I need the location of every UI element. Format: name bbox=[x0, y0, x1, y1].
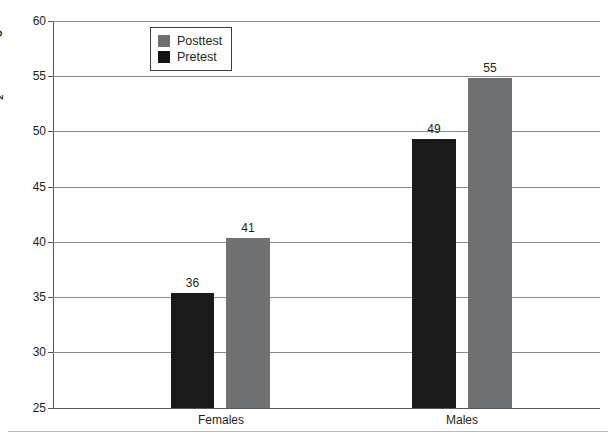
x-tick-label-males: Males bbox=[392, 413, 532, 427]
bar-females-pretest bbox=[171, 293, 214, 408]
legend-item-pretest[interactable]: Pretest bbox=[158, 49, 222, 65]
bar-males-posttest bbox=[468, 78, 512, 408]
bar-males-pretest bbox=[412, 139, 456, 408]
tickmark-50 bbox=[48, 131, 53, 132]
tickmark-45 bbox=[48, 187, 53, 188]
legend-label-posttest: Posttest bbox=[177, 35, 222, 48]
gridline-60 bbox=[53, 21, 600, 22]
tickmark-55 bbox=[48, 76, 53, 77]
bar-value-females-pretest: 36 bbox=[171, 277, 214, 289]
y-axis-title-middle-2: •min bbox=[0, 0, 2, 19]
gridline-45 bbox=[53, 187, 600, 188]
legend-item-posttest[interactable]: Posttest bbox=[158, 33, 222, 49]
plot-area: 36 41 49 55 bbox=[53, 21, 600, 408]
x-tick-label-females: Females bbox=[151, 413, 291, 427]
y-axis-title-middle: max ml•Kg bbox=[0, 30, 2, 95]
y-tick-label-40: 40 bbox=[16, 236, 46, 248]
y-tick-label-50: 50 bbox=[16, 125, 46, 137]
gridline-35 bbox=[53, 297, 600, 298]
y-axis-title: VO2max ml•Kg−1•min−1 bbox=[0, 0, 5, 118]
gridline-30 bbox=[53, 352, 600, 353]
vo2max-bar-chart: VO2max ml•Kg−1•min−1 60 55 50 45 40 35 3… bbox=[0, 0, 616, 439]
legend-label-pretest: Pretest bbox=[177, 51, 217, 64]
tickmark-35 bbox=[48, 297, 53, 298]
bar-value-females-posttest: 41 bbox=[226, 222, 270, 234]
y-tick-label-25: 25 bbox=[16, 402, 46, 414]
gridline-25-baseline bbox=[53, 408, 600, 409]
bar-value-males-posttest: 55 bbox=[468, 62, 512, 74]
y-tick-label-35: 35 bbox=[16, 291, 46, 303]
tickmark-30 bbox=[48, 352, 53, 353]
y-axis-title-prefix: VO bbox=[0, 100, 2, 118]
legend-swatch-pretest-icon bbox=[158, 51, 170, 63]
gridline-55 bbox=[53, 76, 600, 77]
legend-swatch-posttest-icon bbox=[158, 35, 170, 47]
y-tick-label-55: 55 bbox=[16, 70, 46, 82]
gridline-50 bbox=[53, 131, 600, 132]
chart-legend: Posttest Pretest bbox=[150, 27, 232, 71]
y-tick-label-60: 60 bbox=[16, 15, 46, 27]
y-tick-label-45: 45 bbox=[16, 181, 46, 193]
tickmark-25 bbox=[48, 408, 53, 409]
tickmark-60 bbox=[48, 21, 53, 22]
gridline-40 bbox=[53, 242, 600, 243]
bar-value-males-pretest: 49 bbox=[412, 123, 456, 135]
y-tick-label-30: 30 bbox=[16, 346, 46, 358]
bar-females-posttest bbox=[226, 238, 270, 408]
tickmark-40 bbox=[48, 242, 53, 243]
footer-divider bbox=[8, 431, 608, 432]
y-axis-title-subscript: 2 bbox=[0, 95, 5, 100]
